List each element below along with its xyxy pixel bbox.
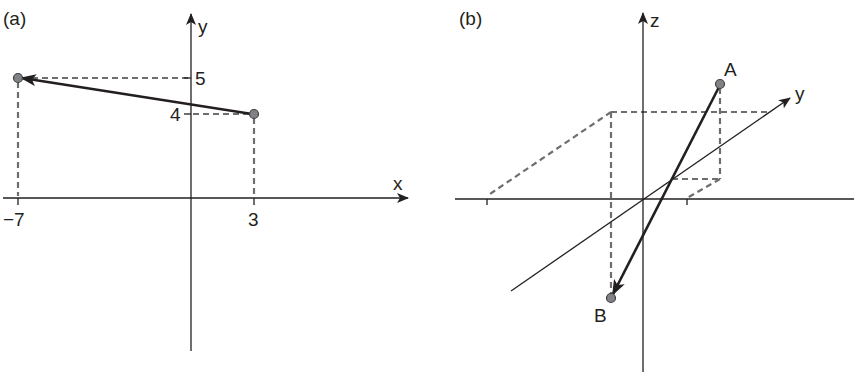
y-axis-3d [511, 98, 790, 291]
panel-a-label: (a) [3, 8, 26, 29]
x-axis-label: x [393, 173, 403, 194]
point-a [716, 80, 725, 89]
panel-b-label: (b) [459, 8, 482, 29]
y-axis-3d-label: y [795, 83, 805, 104]
vector-ab [613, 87, 719, 294]
point-b-label: B [594, 305, 607, 326]
point-a-label: A [724, 59, 737, 80]
vector-a [22, 78, 252, 114]
tick-label-x3: 3 [248, 209, 259, 230]
tick-label-y5: 5 [195, 68, 206, 89]
z-axis-label: z [650, 10, 660, 31]
guide-left-diagonal [487, 112, 611, 196]
diagram-canvas: (a) y x −7 3 5 4 (b) z y [0, 0, 854, 380]
tick-label-x-neg7: −7 [3, 209, 25, 230]
point-start [250, 110, 259, 119]
panel-a: (a) y x −7 3 5 4 [3, 8, 408, 351]
guide-base-diagonal [687, 179, 720, 198]
y-axis-label: y [198, 16, 208, 37]
point-b [607, 294, 616, 303]
panel-b: (b) z y A B [455, 8, 854, 372]
point-end [14, 74, 23, 83]
tick-label-y4: 4 [170, 104, 181, 125]
